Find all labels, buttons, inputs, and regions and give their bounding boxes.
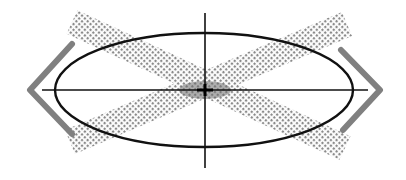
ellipse-diagram: [0, 0, 406, 180]
chevron-left-icon: [30, 44, 72, 134]
